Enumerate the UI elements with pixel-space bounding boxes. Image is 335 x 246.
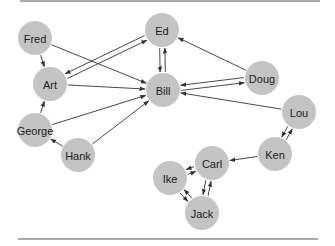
node-carl: Carl bbox=[195, 146, 229, 180]
edge-ken-to-carl bbox=[230, 157, 257, 161]
node-doug: Doug bbox=[245, 61, 279, 95]
edge-ken-to-lou bbox=[286, 129, 292, 140]
edge-hank-to-bill bbox=[92, 101, 148, 144]
node-ken: Ken bbox=[258, 137, 292, 171]
edge-carl-to-jack bbox=[203, 180, 206, 195]
edge-jack-to-ike bbox=[184, 190, 192, 199]
node-label: Jack bbox=[191, 208, 214, 220]
edge-fred-to-bill bbox=[52, 45, 147, 83]
edge-carl-to-ike bbox=[186, 167, 194, 170]
edge-lou-to-ken bbox=[282, 126, 288, 137]
node-ike: Ike bbox=[153, 161, 187, 195]
node-label: Art bbox=[43, 79, 57, 91]
node-label: Bill bbox=[156, 85, 171, 97]
edge-george-to-bill bbox=[52, 95, 146, 124]
node-label: Fred bbox=[24, 33, 47, 45]
edge-jack-to-carl bbox=[208, 181, 211, 196]
node-label: George bbox=[17, 125, 54, 137]
edge-fred-to-art bbox=[41, 55, 45, 67]
node-label: Doug bbox=[249, 73, 275, 85]
node-label: Hank bbox=[65, 150, 91, 162]
edge-art-to-bill bbox=[68, 85, 145, 89]
node-jack: Jack bbox=[185, 196, 219, 230]
network-diagram: FredArtGeorgeHankEdBillDougLouKenCarlIke… bbox=[0, 0, 335, 246]
node-ed: Ed bbox=[145, 13, 179, 47]
node-george: George bbox=[17, 113, 54, 147]
node-lou: Lou bbox=[282, 95, 316, 129]
node-hank: Hank bbox=[61, 138, 95, 172]
edge-doug-to-ed bbox=[178, 38, 246, 70]
edge-ike-to-carl bbox=[188, 172, 196, 175]
edge-art-to-ed bbox=[67, 40, 147, 78]
edge-ike-to-jack bbox=[180, 193, 188, 202]
node-label: Ken bbox=[265, 149, 285, 161]
node-art: Art bbox=[33, 67, 67, 101]
edge-lou-to-bill bbox=[181, 93, 281, 109]
node-bill: Bill bbox=[146, 73, 180, 107]
node-label: Carl bbox=[202, 158, 222, 170]
node-label: Lou bbox=[290, 107, 308, 119]
node-label: Ed bbox=[155, 25, 168, 37]
node-fred: Fred bbox=[18, 21, 52, 55]
edge-george-to-art bbox=[41, 101, 45, 113]
edge-hank-to-george bbox=[51, 139, 63, 146]
node-label: Ike bbox=[163, 173, 178, 185]
